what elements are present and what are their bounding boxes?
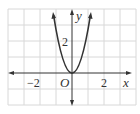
origin-label: O — [60, 75, 70, 90]
curve-right-arrow-icon — [88, 12, 93, 19]
curve-left-arrow-icon — [52, 12, 57, 19]
x-axis-label: x — [122, 75, 129, 90]
x-axis-left-arrow-icon — [8, 71, 14, 75]
x-tick-label-neg2: −2 — [27, 76, 40, 90]
x-tick-label-pos2: 2 — [101, 76, 107, 90]
y-axis-label: y — [74, 8, 82, 23]
y-tick-label-pos2: 2 — [62, 35, 68, 49]
parabola-graph: y x O −2 2 2 — [0, 0, 140, 114]
y-axis-up-arrow-icon — [70, 9, 74, 15]
